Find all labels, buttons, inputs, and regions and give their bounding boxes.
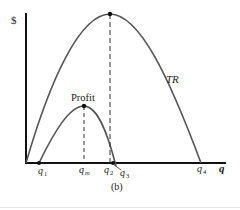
svg-text:q: q <box>197 163 202 174</box>
svg-text:m: m <box>85 169 90 176</box>
tr-peak-point <box>108 12 112 16</box>
svg-text:3: 3 <box>126 172 129 179</box>
tick-q2: q 2 <box>104 164 113 176</box>
chart-caption: (b) <box>111 181 123 193</box>
chart-canvas: $ TR Profit q 1 q m q 2 q 3 q 4 q (b) <box>0 0 240 210</box>
tick-qm: q m <box>79 164 90 176</box>
tr-curve <box>26 14 201 163</box>
svg-text:q: q <box>38 165 43 176</box>
y-axis-label: $ <box>11 14 17 26</box>
profit-peak-point <box>82 104 86 108</box>
bottom-divider <box>0 207 240 208</box>
tick-q3: q 3 <box>120 167 129 179</box>
profit-label: Profit <box>71 92 95 103</box>
svg-text:4: 4 <box>203 168 207 175</box>
tick-q4: q 4 <box>197 163 207 175</box>
tr-label: TR <box>166 73 179 85</box>
svg-text:q: q <box>104 164 109 175</box>
svg-text:1: 1 <box>44 170 47 177</box>
x-axis-label: q <box>219 162 225 174</box>
profit-curve <box>39 106 116 166</box>
svg-text:q: q <box>79 164 84 175</box>
svg-text:2: 2 <box>110 169 113 176</box>
tick-q1: q 1 <box>38 165 47 177</box>
svg-text:q: q <box>120 167 125 178</box>
